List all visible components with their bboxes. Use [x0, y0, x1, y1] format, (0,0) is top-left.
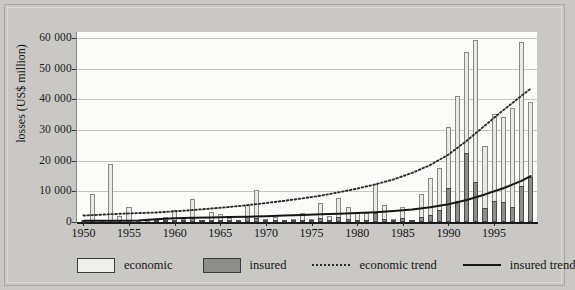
y-tick-label: 60 000 — [8, 32, 72, 44]
y-tick-label: 20 000 — [8, 155, 72, 167]
x-tick-mark — [220, 222, 221, 226]
x-tick-label: 1985 — [391, 226, 415, 241]
legend-item-economic-trend: economic trend — [312, 258, 436, 273]
legend-item-economic: economic — [77, 258, 173, 273]
trend-lines — [77, 32, 537, 222]
legend-label: economic trend — [359, 258, 436, 273]
legend-label: insured — [250, 258, 287, 273]
y-tick-label: 50 000 — [8, 63, 72, 75]
x-tick-label: 1975 — [300, 226, 324, 241]
x-tick-mark — [266, 222, 267, 226]
y-tick-label: 30 000 — [8, 124, 72, 136]
x-tick-label: 1995 — [482, 226, 506, 241]
x-tick-label: 1990 — [436, 226, 460, 241]
x-tick-label: 1960 — [163, 226, 187, 241]
x-axis-line — [77, 222, 538, 224]
x-tick-label: 1950 — [71, 226, 95, 241]
x-tick-mark — [129, 222, 130, 226]
legend-label: economic — [124, 258, 173, 273]
plot-area — [77, 32, 537, 222]
x-tick-mark — [312, 222, 313, 226]
chart-legend: economicinsuredeconomic trendinsured tre… — [77, 252, 537, 278]
x-tick-mark — [448, 222, 449, 226]
legend-item-insured: insured — [203, 258, 287, 273]
x-tick-mark — [403, 222, 404, 226]
dotted-line-icon — [312, 264, 350, 266]
legend-item-insured-trend: insured trend — [463, 258, 575, 273]
x-tick-mark — [175, 222, 176, 226]
y-tick-label: 40 000 — [8, 93, 72, 105]
x-tick-label: 1970 — [254, 226, 278, 241]
trend-line-economic-trend — [83, 89, 530, 216]
x-tick-mark — [357, 222, 358, 226]
x-tick-label: 1980 — [345, 226, 369, 241]
y-tick-label: 10 000 — [8, 185, 72, 197]
x-tick-label: 1965 — [208, 226, 232, 241]
y-axis-ticks: 010 00020 00030 00040 00050 00060 000 — [0, 0, 72, 290]
swatch-dark-icon — [203, 258, 241, 273]
x-tick-label: 1955 — [117, 226, 141, 241]
y-tick-label: 0 — [8, 216, 72, 228]
x-tick-mark — [494, 222, 495, 226]
x-tick-mark — [83, 222, 84, 226]
swatch-light-icon — [77, 258, 115, 273]
legend-label: insured trend — [510, 258, 575, 273]
solid-line-icon — [463, 264, 501, 266]
